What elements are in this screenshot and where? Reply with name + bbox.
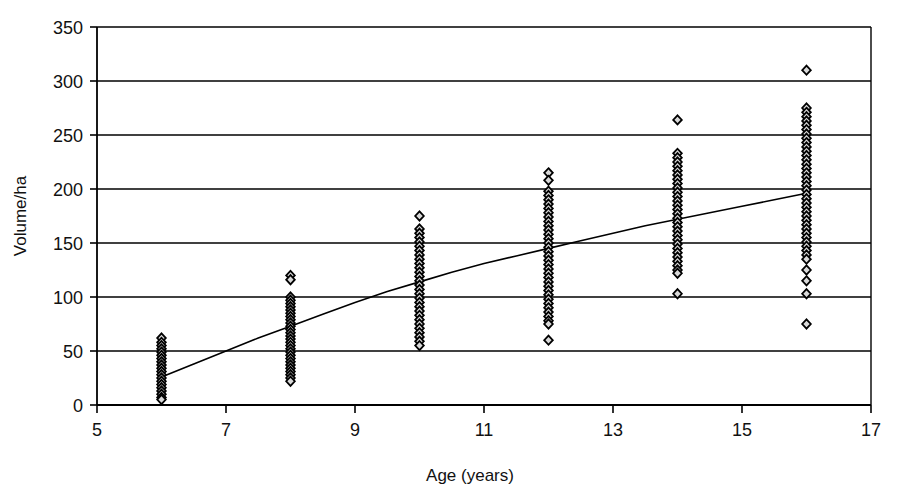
x-tick-label-17: 17	[861, 420, 881, 440]
y-tick-label-0: 0	[73, 396, 83, 416]
scatter-chart-figure: 050100150200250300350 57911131517 Age (y…	[0, 0, 899, 496]
y-tick-label-50: 50	[63, 342, 83, 362]
y-axis-title: Volume/ha	[11, 175, 30, 256]
y-tick-label-200: 200	[53, 180, 83, 200]
x-tick-label-5: 5	[92, 420, 102, 440]
x-tick-label-7: 7	[221, 420, 231, 440]
y-tick-label-300: 300	[53, 72, 83, 92]
chart-canvas: 050100150200250300350 57911131517 Age (y…	[0, 0, 899, 496]
y-tick-label-100: 100	[53, 288, 83, 308]
chart-background	[0, 0, 899, 496]
x-tick-label-9: 9	[350, 420, 360, 440]
x-axis-title: Age (years)	[426, 466, 514, 485]
y-tick-label-250: 250	[53, 126, 83, 146]
x-tick-label-11: 11	[475, 420, 494, 440]
x-tick-label-13: 13	[603, 420, 623, 440]
x-tick-label-15: 15	[732, 420, 752, 440]
y-tick-label-350: 350	[53, 18, 83, 38]
y-tick-label-150: 150	[53, 234, 83, 254]
